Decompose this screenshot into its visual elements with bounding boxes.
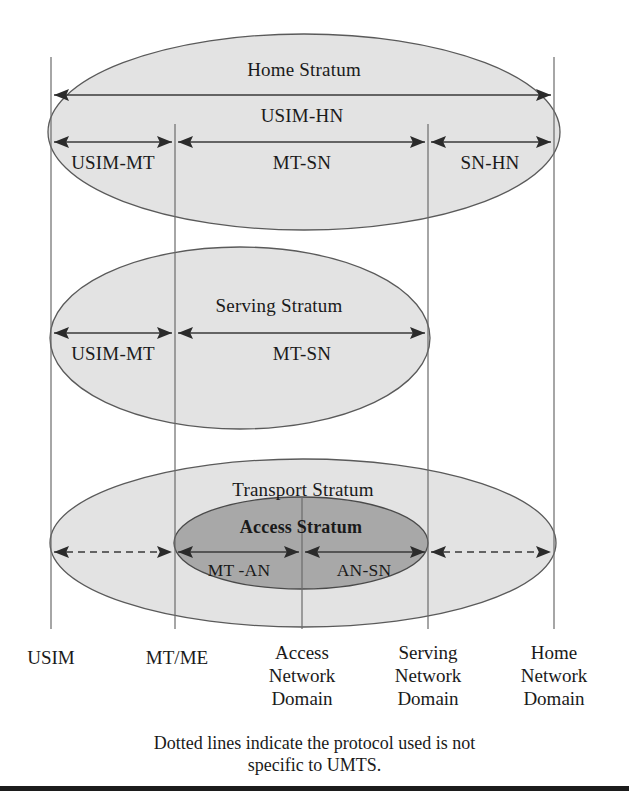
domain-label-serving-line-3: Domain bbox=[395, 687, 461, 710]
domain-label-serving-line-1: Serving bbox=[395, 641, 461, 664]
domain-label-mtme: MT/ME bbox=[146, 646, 208, 669]
domain-label-access-line-1: Access bbox=[269, 641, 335, 664]
interface-label-mt-an: MT -AN bbox=[208, 562, 271, 580]
domain-label-home-line-2: Network bbox=[521, 664, 587, 687]
domain-label-usim-line-1: USIM bbox=[27, 646, 75, 669]
interface-label-sn-hn: SN-HN bbox=[460, 153, 519, 172]
interface-label-mt-sn-home: MT-SN bbox=[273, 153, 331, 172]
domain-label-access-network-domain: Access Network Domain bbox=[269, 641, 335, 711]
domain-label-access-line-3: Domain bbox=[269, 687, 335, 710]
interface-label-usim-mt-serving: USIM-MT bbox=[71, 344, 155, 363]
home-stratum-label: Home Stratum bbox=[247, 60, 361, 79]
interface-label-usim-mt-home: USIM-MT bbox=[71, 153, 155, 172]
serving-stratum-ellipse bbox=[50, 247, 430, 429]
domain-label-access-line-2: Network bbox=[269, 664, 335, 687]
domain-label-usim: USIM bbox=[27, 646, 75, 669]
interface-label-an-sn: AN-SN bbox=[337, 562, 391, 580]
domain-label-mtme-line-1: MT/ME bbox=[146, 646, 208, 669]
figure-caption-line-2: specific to UMTS. bbox=[0, 755, 629, 777]
figure-caption-line-1: Dotted lines indicate the protocol used … bbox=[0, 733, 629, 755]
access-stratum-label: Access Stratum bbox=[240, 518, 362, 536]
domain-label-home-line-1: Home bbox=[521, 641, 587, 664]
interface-label-usim-hn: USIM-HN bbox=[261, 106, 344, 125]
domain-label-home-line-3: Domain bbox=[521, 687, 587, 710]
transport-stratum-label: Transport Stratum bbox=[232, 480, 374, 499]
bottom-rule bbox=[0, 786, 629, 791]
domain-label-serving-network-domain: Serving Network Domain bbox=[395, 641, 461, 711]
figure-caption: Dotted lines indicate the protocol used … bbox=[0, 733, 629, 777]
serving-stratum-label: Serving Stratum bbox=[215, 296, 342, 315]
figure-container: Home Stratum USIM-HN USIM-MT MT-SN SN-HN… bbox=[0, 0, 629, 811]
interface-label-mt-sn-serving: MT-SN bbox=[273, 344, 331, 363]
domain-label-home-network-domain: Home Network Domain bbox=[521, 641, 587, 711]
domain-label-serving-line-2: Network bbox=[395, 664, 461, 687]
